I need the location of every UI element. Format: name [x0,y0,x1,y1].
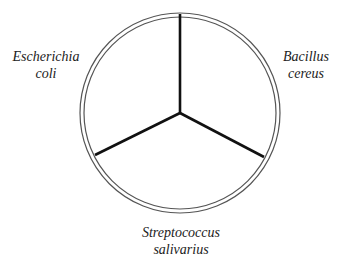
label-line: cereus [273,65,339,82]
sector-label-bacillus-cereus: Bacillus cereus [273,48,339,82]
divider-right [180,113,264,157]
sector-label-streptococcus-salivarius: Streptococcus salivarius [120,224,242,258]
label-line: Escherichia [4,48,88,65]
petri-dish-diagram: Escherichia coli Bacillus cereus Strepto… [0,0,339,262]
label-line: salivarius [120,241,242,258]
sector-label-escherichia-coli: Escherichia coli [4,48,88,82]
label-line: coli [4,65,88,82]
label-line: Streptococcus [120,224,242,241]
dish-graphic [0,0,339,262]
divider-left [95,113,180,155]
label-line: Bacillus [273,48,339,65]
